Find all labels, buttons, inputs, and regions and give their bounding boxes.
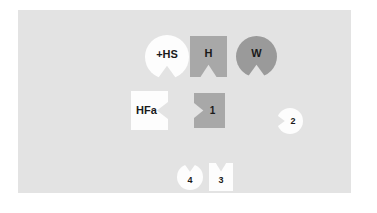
diagram-canvas: +HSHWHFa1243 — [0, 0, 377, 213]
puzzle-piece-hs[interactable]: +HS — [145, 35, 189, 79]
puzzle-piece-h[interactable]: H — [190, 36, 227, 77]
puzzle-piece-piece-4[interactable]: 4 — [177, 164, 203, 190]
puzzle-piece-piece-3[interactable]: 3 — [209, 163, 233, 191]
puzzle-piece-hfa[interactable]: HFa — [131, 91, 168, 130]
puzzle-piece-piece-1[interactable]: 1 — [194, 93, 225, 128]
puzzle-piece-w[interactable]: W — [236, 36, 277, 77]
puzzle-piece-piece-2[interactable]: 2 — [277, 108, 303, 134]
